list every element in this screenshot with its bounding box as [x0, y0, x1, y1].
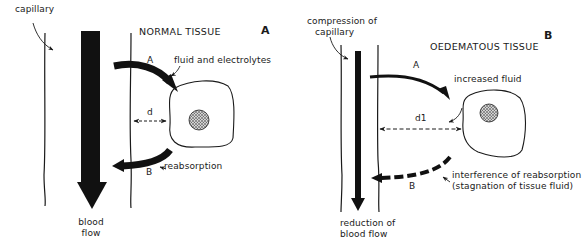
compression-pointer-arrow: [330, 37, 348, 59]
arrow-b-label: B: [146, 167, 152, 178]
blood-flow-arrow-icon: [77, 31, 107, 209]
panel-b-title: OEDEMATOUS TISSUE: [430, 41, 539, 52]
panel-b-letter: B: [544, 30, 552, 41]
capillary-wall-left: [44, 33, 45, 206]
capillary-wall-right: [130, 33, 131, 208]
diagram-canvas: [0, 0, 584, 252]
interference-of-reabsorption-label: interference of reabsorption (stagnation…: [452, 170, 581, 192]
fluid-pointer-arrow: [171, 66, 180, 76]
reduced-blood-flow-arrow-icon: [351, 51, 365, 211]
cell-nucleus-a: [189, 110, 209, 130]
arrow-a-label-b: A: [413, 60, 419, 71]
reabsorption-label: reabsorption: [164, 161, 222, 172]
tissue-cell-b: [463, 90, 526, 157]
arrow-b-reabsorption-icon: [112, 150, 170, 172]
panel-a-normal-tissue: [33, 23, 234, 209]
distance-d1-label: d1: [415, 113, 427, 124]
compression-of-capillary-label: compression of capillary: [307, 16, 377, 38]
arrow-a-label: A: [147, 55, 153, 66]
panel-a-title: NORMAL TISSUE: [139, 26, 221, 37]
arrow-b-label-b: B: [409, 181, 415, 192]
capillary-pointer-arrow: [33, 23, 53, 50]
arrow-a-filtration-icon: [114, 64, 178, 92]
increased-fluid-label: increased fluid: [454, 74, 522, 85]
reduction-of-blood-flow-label: reduction of blood flow: [340, 218, 395, 240]
fluid-electrolytes-label: fluid and electrolytes: [174, 55, 271, 66]
capillary-label: capillary: [15, 4, 54, 15]
distance-d-label: d: [147, 107, 153, 118]
arrow-a-increased-fluid-icon: [370, 76, 450, 100]
increased-fluid-pointer-arrow: [449, 108, 462, 122]
blood-flow-label: blood flow: [76, 217, 106, 239]
panel-a-letter: A: [261, 25, 270, 36]
cell-nucleus-b: [480, 104, 498, 122]
arrow-b-impaired-reabsorption-icon: [371, 157, 450, 183]
capillary-wall-right-b: [378, 45, 379, 212]
interference-pointer-arrow: [443, 177, 450, 182]
capillary-wall-left-b: [341, 45, 342, 212]
